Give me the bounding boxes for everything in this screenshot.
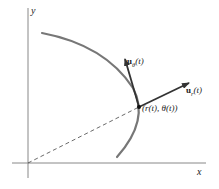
u-theta-label: uθ(t) — [127, 56, 144, 68]
x-axis-label: x — [196, 166, 202, 177]
curve-point — [137, 105, 141, 109]
u-r-label: ur(t) — [186, 85, 202, 97]
radius-line — [28, 107, 139, 163]
diagram-svg: y x uθ(t) ur(t) (r(t), θ(t)) — [0, 0, 219, 189]
u-theta-arg: (t) — [135, 56, 144, 66]
y-axis-label: y — [30, 5, 36, 16]
point-label: (r(t), θ(t)) — [142, 103, 177, 113]
u-r-arg: (t) — [194, 85, 203, 95]
polar-unit-vectors-diagram: y x uθ(t) ur(t) (r(t), θ(t)) — [0, 0, 219, 189]
polar-curve — [42, 33, 139, 157]
